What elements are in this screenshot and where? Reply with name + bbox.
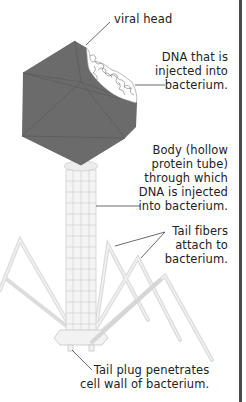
- label-line: Tail fibers: [165, 224, 228, 238]
- label-line: Body (hollow: [138, 143, 228, 157]
- label-tail-plug: Tail plug penetrates cell wall of bacter…: [80, 363, 209, 391]
- label-line: DNA that is: [155, 50, 228, 64]
- label-line: injected into: [155, 64, 228, 78]
- label-line: cell wall of bacterium.: [80, 377, 209, 391]
- label-body: Body (hollow protein tube) through which…: [138, 143, 228, 213]
- label-line: DNA is injected: [138, 185, 228, 199]
- label-line: through which: [138, 171, 228, 185]
- label-line: protein tube): [138, 157, 228, 171]
- label-line: into bacterium.: [138, 199, 228, 213]
- tail-tube: [66, 170, 96, 332]
- label-line: attach to: [165, 238, 228, 252]
- label-viral-head: viral head: [114, 12, 172, 26]
- label-tail-fibers: Tail fibers attach to bacterium.: [165, 224, 228, 266]
- label-line: bacterium.: [165, 252, 228, 266]
- label-line: bacterium.: [155, 78, 228, 92]
- label-line: Tail plug penetrates: [80, 363, 209, 377]
- label-dna: DNA that is injected into bacterium.: [155, 50, 228, 92]
- label-line: viral head: [114, 12, 172, 26]
- viral-head: [22, 41, 137, 165]
